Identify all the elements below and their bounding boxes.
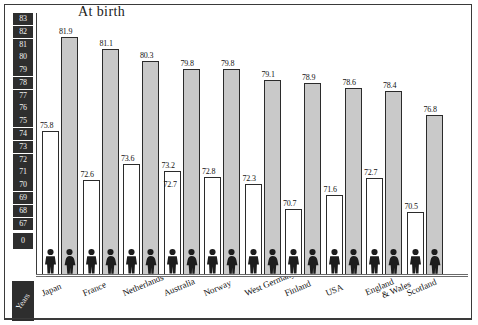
category-label: Finland <box>283 278 312 298</box>
bar-group: 70.778.9 <box>285 13 321 275</box>
category-label: Japan <box>40 281 63 298</box>
bar-value-male: 71.6 <box>324 185 337 194</box>
category-label: Australia <box>162 276 196 298</box>
x-axis-line <box>36 274 468 275</box>
bar-value-male: 70.5 <box>405 202 418 211</box>
y-axis-tick: 69 <box>13 192 33 204</box>
y-axis-tick: 68 <box>13 205 33 217</box>
bottom-rule <box>5 318 471 319</box>
y-axis-tick: 83 <box>13 13 33 25</box>
bar-value-male: 72.6 <box>81 170 94 179</box>
y-axis-tick: 79 <box>13 64 33 76</box>
bar-value-male: 70.7 <box>283 199 296 208</box>
bar-value-male: 72.8 <box>202 167 215 176</box>
bar-male[interactable] <box>204 177 221 275</box>
y-axis-tick: 80 <box>13 51 33 63</box>
y-axis-tick: 0 <box>13 233 33 249</box>
bar-value-male: 73.6 <box>121 154 134 163</box>
bar-value-female: 79.8 <box>221 59 234 68</box>
bar-female[interactable] <box>183 69 200 275</box>
y-axis-tick: 82 <box>13 26 33 38</box>
bar-male[interactable] <box>83 180 100 275</box>
category-label: Netherlands <box>121 276 165 298</box>
bar-male[interactable] <box>366 178 383 275</box>
bar-female[interactable] <box>264 80 281 275</box>
bar-value-female: 78.9 <box>302 73 315 82</box>
bar-value-male: 75.8 <box>40 121 53 130</box>
bar-female[interactable] <box>345 88 362 275</box>
y-axis-tick: 76 <box>13 102 33 114</box>
y-axis-tick: 70 <box>13 179 33 191</box>
bar-group: 72.879.8 <box>204 13 240 275</box>
bar-value-female: 79.1 <box>262 70 275 79</box>
bar-male[interactable] <box>123 164 140 275</box>
y-axis-tick: 71 <box>13 166 33 178</box>
bar-group: 72.681.1 <box>83 13 119 275</box>
y-axis-ticks: 83828180797877767574737271706968670 <box>13 13 33 249</box>
bar-value-annotation: 72.7 <box>164 180 177 189</box>
bar-group: 73.279.872.7 <box>164 13 200 275</box>
y-axis-unit-text: Years <box>14 291 32 311</box>
bar-female[interactable] <box>426 115 443 275</box>
bar-group: 75.881.9 <box>42 13 78 275</box>
y-axis-tick: 81 <box>13 39 33 51</box>
y-axis-tick: 74 <box>13 128 33 140</box>
bar-male[interactable] <box>245 184 262 275</box>
bar-value-female: 81.1 <box>100 39 113 48</box>
bar-male[interactable] <box>42 131 59 275</box>
bar-female[interactable] <box>385 91 402 275</box>
bar-female[interactable] <box>142 61 159 275</box>
bar-male[interactable] <box>326 195 343 275</box>
bar-female[interactable] <box>223 69 240 275</box>
y-axis-tick: 72 <box>13 154 33 166</box>
category-label: USA <box>324 282 344 298</box>
bar-value-female: 81.9 <box>59 27 72 36</box>
category-label: Norway <box>202 278 233 299</box>
bar-value-female: 76.8 <box>424 105 437 114</box>
bar-value-male: 72.7 <box>364 168 377 177</box>
category-labels: JapanFranceNetherlandsAustraliaNorwayWes… <box>36 276 468 321</box>
bar-group: 72.379.1 <box>245 13 281 275</box>
bar-value-female: 78.6 <box>343 78 356 87</box>
bar-value-male: 72.3 <box>243 174 256 183</box>
category-label: France <box>81 279 107 298</box>
bar-male[interactable] <box>407 212 424 275</box>
bar-female[interactable] <box>102 49 119 275</box>
bar-group: 73.680.3 <box>123 13 159 275</box>
bar-value-female: 78.4 <box>383 81 396 90</box>
y-axis-tick: 67 <box>13 218 33 230</box>
bar-value-female: 80.3 <box>140 51 153 60</box>
y-axis-tick: 78 <box>13 77 33 89</box>
bar-group: 71.678.6 <box>326 13 362 275</box>
bar-value-female: 79.8 <box>181 59 194 68</box>
bar-value-male: 73.2 <box>162 161 175 170</box>
y-axis-tick: 75 <box>13 115 33 127</box>
y-axis-tick: 73 <box>13 141 33 153</box>
y-axis-unit-label: Years <box>12 281 34 321</box>
bar-group: 70.576.8 <box>407 13 443 275</box>
bar-female[interactable] <box>61 37 78 275</box>
chart-root: At birth 8382818079787776757473727170696… <box>0 0 478 325</box>
bar-male[interactable] <box>285 209 302 275</box>
bar-group: 72.778.4 <box>366 13 402 275</box>
plot-area: 75.881.972.681.173.680.373.279.872.772.8… <box>36 13 468 275</box>
bar-female[interactable] <box>304 83 321 275</box>
y-axis-tick: 77 <box>13 90 33 102</box>
